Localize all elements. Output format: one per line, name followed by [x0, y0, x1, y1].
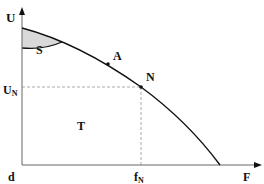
point-a-marker: [106, 62, 110, 66]
fn-label: fN: [134, 170, 144, 184]
diagram: U S A N UN T d fN F: [0, 0, 264, 184]
region-t-label: T: [77, 119, 85, 133]
y-axis-arrow-icon: [19, 7, 25, 15]
region-s-label: S: [36, 43, 43, 57]
point-a-label: A: [113, 49, 122, 63]
y-axis-label: U: [6, 10, 16, 25]
point-n-label: N: [146, 70, 155, 84]
point-n-marker: [139, 85, 143, 89]
un-label: UN: [3, 83, 18, 98]
x-axis-arrow-icon: [254, 162, 262, 168]
x-axis-label: F: [243, 170, 250, 184]
origin-label: d: [8, 170, 15, 184]
